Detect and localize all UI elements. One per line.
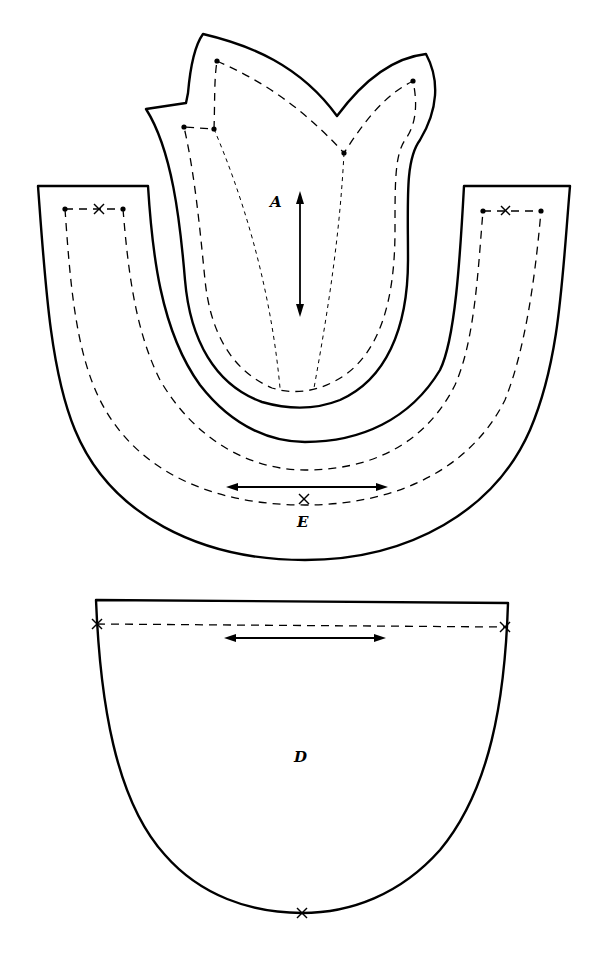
piece-d: D xyxy=(92,600,510,918)
piece-label-a: A xyxy=(268,193,282,211)
corner-dot xyxy=(538,208,543,213)
corner-dot xyxy=(480,208,485,213)
corner-dot xyxy=(211,126,216,131)
piece-a-cut-line xyxy=(146,34,435,408)
piece-label-d: D xyxy=(293,748,307,766)
corner-dot xyxy=(410,78,415,83)
corner-dot xyxy=(341,150,346,155)
corner-dot xyxy=(120,206,125,211)
piece-a: A xyxy=(146,34,435,408)
corner-dot xyxy=(214,58,219,63)
piece-label-e: E xyxy=(296,513,309,531)
pattern-diagram: E A xyxy=(0,0,602,956)
corner-dot xyxy=(181,124,186,129)
corner-dot xyxy=(62,206,67,211)
